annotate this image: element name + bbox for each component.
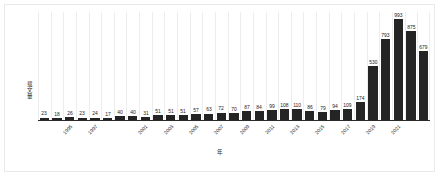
x-tick: 2007 (215, 121, 228, 149)
x-tick-label: 2013 (289, 124, 300, 135)
bar (217, 113, 226, 120)
bar-value-label: 72 (219, 107, 224, 112)
bar-column: 84 (253, 12, 266, 120)
chart-figure: 载文量 231826232417404031515151576372708784… (0, 0, 440, 179)
x-tick-label: 1995 (62, 124, 73, 135)
x-tick: 2001 (139, 121, 152, 149)
x-tick-label: 2019 (365, 124, 376, 135)
bar-column: 72 (215, 12, 228, 120)
x-tick: 2019 (367, 121, 380, 149)
bar (292, 109, 301, 120)
bar-value-label: 40 (117, 110, 122, 115)
x-tick (329, 121, 342, 149)
x-tick: 2015 (316, 121, 329, 149)
bar-value-label: 51 (155, 109, 160, 114)
x-tick-label: 2001 (138, 124, 149, 135)
x-tick: 2013 (291, 121, 304, 149)
bar-column: 530 (367, 12, 380, 120)
bar-value-label: 18 (54, 112, 59, 117)
x-tick: 1995 (63, 121, 76, 149)
x-tick (278, 121, 291, 149)
bar-value-label: 70 (231, 107, 236, 112)
bar-column: 110 (291, 12, 304, 120)
x-tick: 1997 (89, 121, 102, 149)
bar-value-label: 875 (407, 25, 415, 30)
bar-column: 793 (379, 12, 392, 120)
bar-value-label: 86 (307, 105, 312, 110)
bar-column: 993 (392, 12, 405, 120)
x-tick-label: 2021 (390, 124, 401, 135)
x-tick (253, 121, 266, 149)
bar-value-label: 17 (105, 112, 110, 117)
bar-column: 51 (177, 12, 190, 120)
bar-value-label: 108 (280, 103, 288, 108)
x-tick (417, 121, 430, 149)
x-tick (126, 121, 139, 149)
bar-value-label: 84 (256, 105, 261, 110)
bar-value-label: 24 (92, 111, 97, 116)
bar (394, 19, 403, 120)
x-tick-label: 2015 (315, 124, 326, 135)
x-axis-tick-labels: 1995199720012003200520072009201120132015… (38, 121, 430, 149)
bar-column: 87 (240, 12, 253, 120)
bar-value-label: 110 (293, 103, 301, 108)
bar-column: 17 (101, 12, 114, 120)
bar-value-label: 63 (206, 108, 211, 113)
bar-column: 63 (202, 12, 215, 120)
bar (419, 51, 428, 120)
bar-value-label: 530 (369, 60, 377, 65)
bar-column: 94 (329, 12, 342, 120)
bar-value-label: 23 (42, 112, 47, 117)
x-tick (38, 121, 51, 149)
bar-value-label: 109 (344, 103, 352, 108)
bar-column: 79 (316, 12, 329, 120)
x-tick (202, 121, 215, 149)
x-tick-label: 2009 (239, 124, 250, 135)
bar-value-label: 26 (67, 111, 72, 116)
x-tick (405, 121, 418, 149)
bar (356, 102, 365, 120)
x-tick: 2017 (341, 121, 354, 149)
bar-value-label: 31 (143, 111, 148, 116)
x-tick (152, 121, 165, 149)
x-tick-label: 2003 (163, 124, 174, 135)
bar-column: 679 (417, 12, 430, 120)
x-tick-label: 2005 (188, 124, 199, 135)
bar (343, 109, 352, 120)
bar (229, 113, 238, 120)
bar-column: 31 (139, 12, 152, 120)
bar (381, 39, 390, 120)
bar-column: 51 (164, 12, 177, 120)
x-tick (76, 121, 89, 149)
bar-column: 26 (63, 12, 76, 120)
bar-value-label: 40 (130, 110, 135, 115)
x-axis-title: 年 (0, 150, 440, 156)
x-tick (177, 121, 190, 149)
bar-column: 86 (303, 12, 316, 120)
bar-value-label: 87 (244, 105, 249, 110)
x-tick: 2003 (164, 121, 177, 149)
bar-column: 23 (76, 12, 89, 120)
bar (330, 110, 339, 120)
bar (267, 110, 276, 120)
x-tick (228, 121, 241, 149)
bar-column: 875 (405, 12, 418, 120)
bar-column: 40 (126, 12, 139, 120)
x-tick-label: 2017 (340, 124, 351, 135)
bar-column: 24 (89, 12, 102, 120)
bar-column: 70 (228, 12, 241, 120)
bar-value-label: 993 (394, 13, 402, 18)
bar (318, 112, 327, 120)
x-tick: 2011 (266, 121, 279, 149)
bar-value-label: 51 (181, 109, 186, 114)
bar-column: 40 (114, 12, 127, 120)
bar (280, 109, 289, 120)
x-tick-label: 1997 (87, 124, 98, 135)
bar-value-label: 174 (356, 96, 364, 101)
x-tick: 2009 (240, 121, 253, 149)
x-tick-label: 2007 (213, 124, 224, 135)
bar-value-label: 23 (79, 112, 84, 117)
bar-value-label: 51 (168, 109, 173, 114)
bar (406, 31, 415, 120)
bar (305, 111, 314, 120)
